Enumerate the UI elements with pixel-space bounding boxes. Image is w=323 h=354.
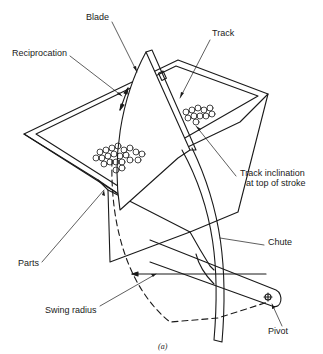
label-track: Track: [212, 28, 234, 38]
parts-pile-right: [183, 105, 215, 125]
diagram-canvas: Blade Track Reciprocation Track inclinat…: [0, 0, 323, 354]
label-parts: Parts: [18, 258, 39, 268]
label-blade: Blade: [86, 12, 109, 22]
figure-caption: (a): [158, 342, 167, 352]
label-reciprocation: Reciprocation: [12, 48, 67, 58]
label-track-inclination-2: at top of stroke: [246, 178, 306, 188]
chute: [182, 148, 224, 342]
label-chute: Chute: [268, 237, 292, 247]
label-track-inclination-1: Track inclination: [240, 168, 305, 178]
label-pivot: Pivot: [268, 326, 288, 336]
label-swing-radius: Swing radius: [45, 305, 97, 315]
blade: [117, 52, 190, 210]
